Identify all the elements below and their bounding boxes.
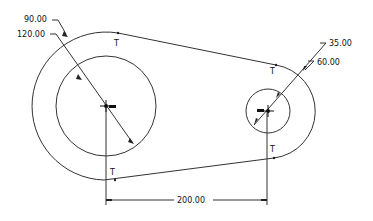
dim-label-90[interactable]: 90.00 bbox=[24, 15, 47, 24]
tangent-marker: T bbox=[269, 67, 275, 76]
bottom-tangent-line[interactable] bbox=[104, 158, 274, 180]
center-marker-large[interactable] bbox=[109, 105, 116, 108]
center-marker-small[interactable] bbox=[257, 109, 264, 112]
dim-label-200[interactable]: 200.00 bbox=[177, 196, 205, 205]
tangent-marker: T bbox=[109, 168, 115, 177]
top-tangent-line[interactable] bbox=[118, 33, 276, 65]
tangent-marker: T bbox=[113, 39, 119, 48]
sketch-canvas: 90.00 120.00 35.00 60.00 200.00 T T T T bbox=[0, 0, 373, 221]
dim-label-60[interactable]: 60.00 bbox=[317, 58, 340, 67]
dim-label-120[interactable]: 120.00 bbox=[17, 30, 45, 39]
dim-label-35[interactable]: 35.00 bbox=[329, 39, 352, 48]
leader-120 bbox=[50, 34, 132, 142]
tangent-marker: T bbox=[269, 145, 275, 154]
